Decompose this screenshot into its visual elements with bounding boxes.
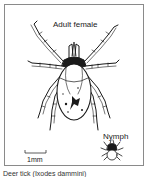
nymph-label: Nymph bbox=[103, 133, 128, 141]
nymph-tick-icon bbox=[101, 140, 123, 160]
figure-caption: Deer tick (Ixodes dammini) bbox=[3, 170, 86, 177]
adult-female-label: Adult female bbox=[53, 21, 97, 29]
scale-bar bbox=[25, 150, 46, 153]
adult-female-tick-icon bbox=[28, 21, 119, 130]
scale-label: 1mm bbox=[27, 156, 43, 164]
